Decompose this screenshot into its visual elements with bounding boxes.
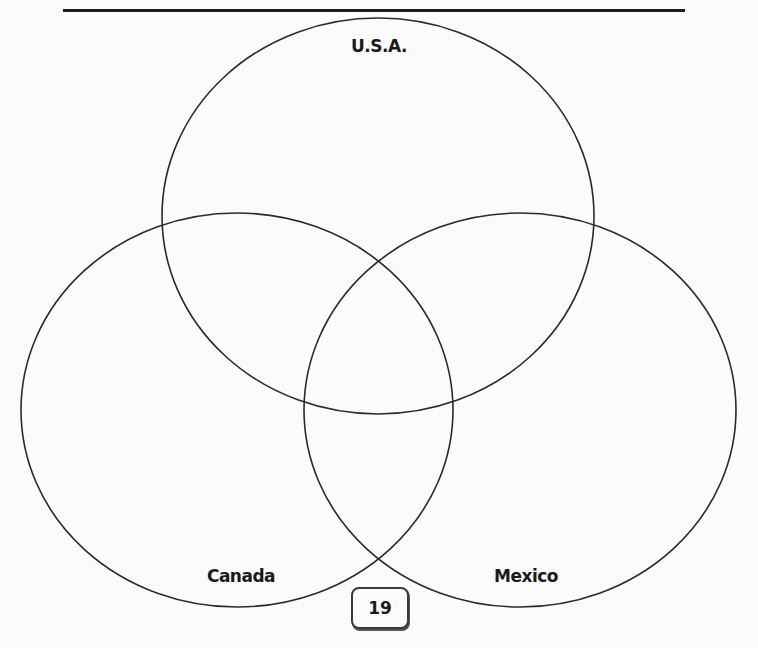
mexico-label: Mexico [494, 566, 558, 586]
page-number: 19 [368, 598, 392, 618]
canada-label: Canada [207, 566, 275, 586]
canada-circle [21, 213, 453, 607]
mexico-circle [304, 213, 736, 607]
page-number-box: 19 [351, 587, 409, 629]
usa-label: U.S.A. [351, 36, 407, 56]
usa-circle [162, 18, 594, 414]
venn-diagram [0, 0, 758, 648]
